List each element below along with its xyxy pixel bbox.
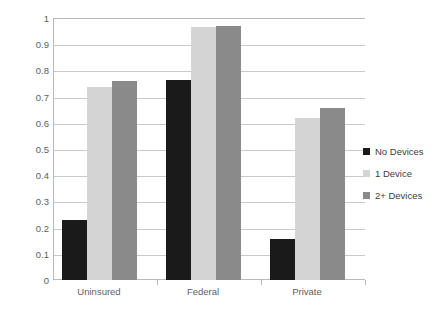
bar: [112, 81, 137, 280]
y-axis-tick-label: 0.6: [3, 117, 49, 128]
bar-group: [53, 18, 157, 280]
bar: [191, 27, 216, 280]
y-axis-tick-label: 0.5: [3, 144, 49, 155]
y-axis-tick-label: 0: [3, 275, 49, 286]
y-axis-tick-label: 0.3: [3, 196, 49, 207]
x-axis-tick-mark: [261, 280, 262, 285]
y-axis-tick-label: 0.7: [3, 91, 49, 102]
bar: [87, 87, 112, 280]
legend: No Devices1 Device2+ Devices: [363, 140, 437, 206]
y-axis: 10.90.80.70.60.50.40.30.20.10: [0, 18, 49, 280]
bar-chart: 10.90.80.70.60.50.40.30.20.10 UninsuredF…: [0, 0, 438, 319]
legend-swatch-icon: [363, 170, 370, 177]
legend-item: No Devices: [363, 140, 437, 162]
legend-label: 2+ Devices: [375, 190, 422, 201]
legend-swatch-icon: [363, 148, 370, 155]
bars-layer: [53, 18, 365, 280]
y-axis-tick-label: 1: [3, 13, 49, 24]
x-axis: UninsuredFederalPrivate: [53, 286, 365, 302]
legend-swatch-icon: [363, 192, 370, 199]
legend-item: 2+ Devices: [363, 184, 437, 206]
bar: [166, 80, 191, 280]
x-axis-category-label: Federal: [187, 286, 219, 297]
y-axis-tick-label: 0.1: [3, 248, 49, 259]
legend-label: No Devices: [375, 146, 424, 157]
bar: [320, 108, 345, 280]
y-axis-tick-label: 0.2: [3, 222, 49, 233]
bar: [216, 26, 241, 280]
x-axis-tick-mark: [365, 280, 366, 285]
legend-label: 1 Device: [375, 168, 412, 179]
bar-group: [261, 18, 365, 280]
x-axis-category-label: Uninsured: [77, 286, 120, 297]
bar: [295, 118, 320, 280]
x-axis-category-label: Private: [292, 286, 322, 297]
y-axis-tick-label: 0.4: [3, 170, 49, 181]
legend-item: 1 Device: [363, 162, 437, 184]
y-axis-tick-label: 0.9: [3, 39, 49, 50]
bar-group: [157, 18, 261, 280]
bar: [270, 239, 295, 280]
bar: [62, 220, 87, 280]
x-axis-tick-mark: [157, 280, 158, 285]
y-axis-tick-label: 0.8: [3, 65, 49, 76]
